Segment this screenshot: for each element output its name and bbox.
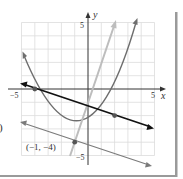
graph: −5 5 x 5 −5 y (−1, −4) ): [0, 0, 183, 179]
x-max-tick-label: 5: [151, 91, 155, 100]
point-label: (−1, −4): [26, 142, 56, 152]
y-max-tick-label: 5: [80, 21, 84, 30]
y-min-tick-label: −5: [76, 153, 85, 162]
light-line-arrow-icon: [111, 20, 117, 29]
bottom-border: [0, 175, 177, 177]
right-border: [175, 12, 178, 177]
y-axis-arrow-icon: [86, 12, 91, 18]
point-neg1-neg4: [72, 140, 77, 145]
left-edge-fragment: ): [0, 121, 3, 134]
lower-line-right-arrow-icon: [145, 162, 152, 168]
x-min-tick-label: −5: [10, 91, 19, 100]
x-axis-label: x: [160, 90, 166, 101]
parabola-curve: [24, 23, 136, 121]
light-line: [70, 26, 114, 156]
point-neg4-0: [32, 87, 37, 92]
lower-line-left-arrow-icon: [20, 121, 27, 127]
parabola-right-arrow-icon: [133, 18, 138, 25]
y-axis-label: y: [92, 9, 98, 20]
point-2-neg2: [112, 113, 117, 118]
black-line: [26, 85, 148, 126]
